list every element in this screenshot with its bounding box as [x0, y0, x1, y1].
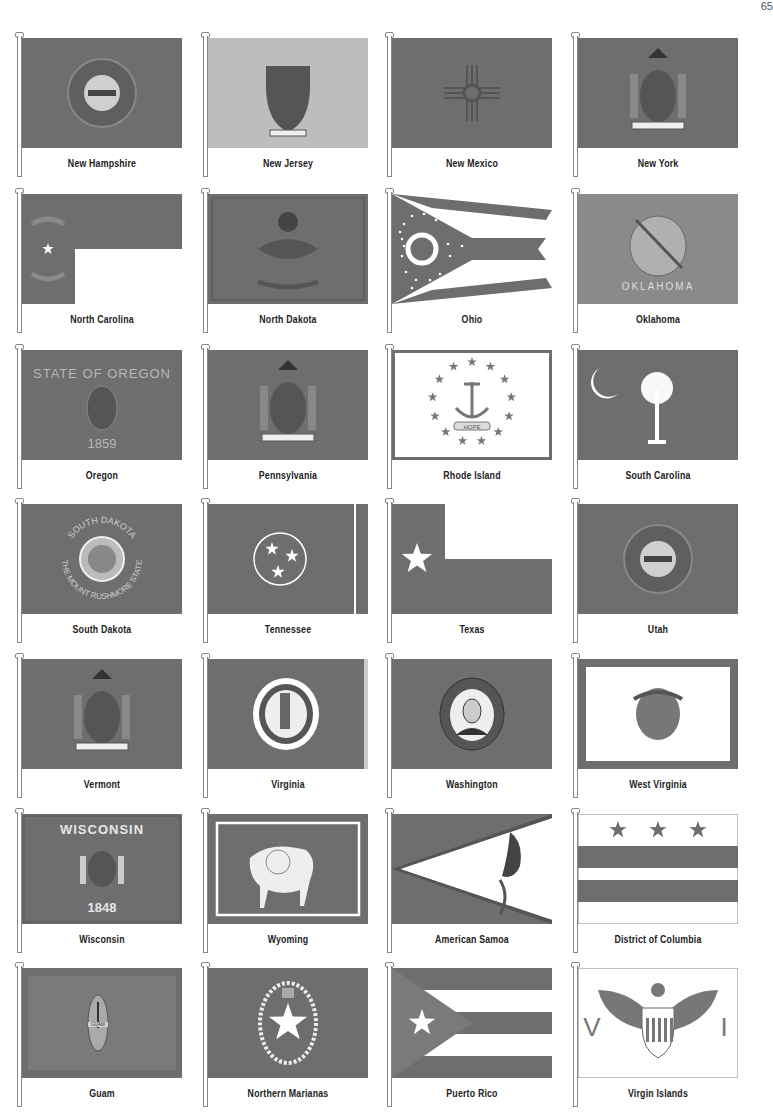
- svg-text:1859: 1859: [88, 436, 117, 451]
- flag-label: South Dakota: [32, 624, 173, 635]
- flag-card-west-virginia: West Virginia: [566, 653, 752, 803]
- flag-label: Ohio: [402, 314, 543, 325]
- flag-card-ohio: Ohio: [380, 188, 566, 338]
- flag-label: South Carolina: [588, 470, 729, 481]
- flag-image-tennessee: [208, 504, 368, 614]
- flag-card-guam: GUAMGuam: [10, 962, 196, 1112]
- svg-text:HOPE: HOPE: [463, 424, 480, 430]
- flag-card-new-hampshire: New Hampshire: [10, 32, 196, 182]
- flag-card-texas: Texas: [380, 498, 566, 648]
- flag-label: Wisconsin: [32, 934, 173, 945]
- flag-label: Pennsylvania: [218, 470, 359, 481]
- flag-card-new-york: New York: [566, 32, 752, 182]
- flag-image-american-samoa: [392, 814, 552, 924]
- flag-image-rhode-island: HOPE: [392, 350, 552, 460]
- flag-card-wisconsin: WISCONSIN1848Wisconsin: [10, 808, 196, 958]
- flag-label: West Virginia: [588, 779, 729, 790]
- flag-card-rhode-island: HOPERhode Island: [380, 344, 566, 494]
- flag-card-south-dakota: SOUTH DAKOTATHE MOUNT RUSHMORE STATESout…: [10, 498, 196, 648]
- flag-card-virginia: Virginia: [196, 653, 382, 803]
- flag-image-wisconsin: WISCONSIN1848: [22, 814, 182, 924]
- flag-image-northern-marianas: [208, 968, 368, 1078]
- flag-image-south-dakota: SOUTH DAKOTATHE MOUNT RUSHMORE STATE: [22, 504, 182, 614]
- flag-image-oregon: STATE OF OREGON1859: [22, 350, 182, 460]
- flag-label: New Mexico: [402, 158, 543, 169]
- flag-card-washington: Washington: [380, 653, 566, 803]
- flag-label: Virginia: [218, 779, 359, 790]
- flag-label: Utah: [588, 624, 729, 635]
- flag-card-utah: Utah: [566, 498, 752, 648]
- flag-card-district-of-columbia: District of Columbia: [566, 808, 752, 958]
- flag-card-north-carolina: North Carolina: [10, 188, 196, 338]
- flag-image-ohio: [392, 194, 552, 304]
- svg-text:STATE OF OREGON: STATE OF OREGON: [33, 366, 171, 381]
- svg-text:WISCONSIN: WISCONSIN: [60, 822, 144, 837]
- flag-card-oregon: STATE OF OREGON1859Oregon: [10, 344, 196, 494]
- flag-card-northern-marianas: Northern Marianas: [196, 962, 382, 1112]
- flag-label: Washington: [402, 779, 543, 790]
- flag-label: North Carolina: [32, 314, 173, 325]
- flag-label: Puerto Rico: [402, 1088, 543, 1099]
- flag-image-virginia: [208, 659, 368, 769]
- flag-image-wyoming: [208, 814, 368, 924]
- flag-image-oklahoma: OKLAHOMA: [578, 194, 738, 304]
- flag-label: Rhode Island: [402, 470, 543, 481]
- flag-label: New York: [588, 158, 729, 169]
- flag-label: Oklahoma: [588, 314, 729, 325]
- flag-label: North Dakota: [218, 314, 359, 325]
- flag-card-tennessee: Tennessee: [196, 498, 382, 648]
- flag-card-pennsylvania: Pennsylvania: [196, 344, 382, 494]
- flag-image-utah: [578, 504, 738, 614]
- flag-card-oklahoma: OKLAHOMAOklahoma: [566, 188, 752, 338]
- flag-image-north-carolina: [22, 194, 182, 304]
- flag-label: New Jersey: [218, 158, 359, 169]
- flag-card-new-jersey: New Jersey: [196, 32, 382, 182]
- flag-label: Virgin Islands: [588, 1088, 729, 1099]
- flag-card-puerto-rico: Puerto Rico: [380, 962, 566, 1112]
- flag-card-new-mexico: New Mexico: [380, 32, 566, 182]
- flag-image-puerto-rico: [392, 968, 552, 1078]
- svg-text:I: I: [720, 1012, 727, 1042]
- flag-card-virgin-islands: VIVirgin Islands: [566, 962, 752, 1112]
- flag-image-district-of-columbia: [578, 814, 738, 924]
- flag-card-wyoming: Wyoming: [196, 808, 382, 958]
- flag-card-vermont: Vermont: [10, 653, 196, 803]
- flag-label: New Hampshire: [32, 158, 173, 169]
- flag-label: District of Columbia: [588, 934, 729, 945]
- flag-image-new-mexico: [392, 38, 552, 148]
- page-number: 65: [761, 0, 773, 12]
- flag-label: Wyoming: [218, 934, 359, 945]
- flag-label: Tennessee: [218, 624, 359, 635]
- flag-image-vermont: [22, 659, 182, 769]
- svg-text:GUAM: GUAM: [91, 1022, 105, 1027]
- svg-text:OKLAHOMA: OKLAHOMA: [622, 281, 695, 292]
- flag-image-north-dakota: [208, 194, 368, 304]
- flag-label: Texas: [402, 624, 543, 635]
- flag-image-pennsylvania: [208, 350, 368, 460]
- flag-image-new-hampshire: [22, 38, 182, 148]
- flag-image-new-york: [578, 38, 738, 148]
- flag-image-virgin-islands: VI: [578, 968, 738, 1078]
- flag-label: Oregon: [32, 470, 173, 481]
- svg-text:V: V: [583, 1012, 601, 1042]
- flag-label: American Samoa: [402, 934, 543, 945]
- flag-image-guam: GUAM: [22, 968, 182, 1078]
- flag-image-texas: [392, 504, 552, 614]
- flag-label: Guam: [32, 1088, 173, 1099]
- flag-image-south-carolina: [578, 350, 738, 460]
- svg-text:1848: 1848: [88, 900, 117, 915]
- flag-card-american-samoa: American Samoa: [380, 808, 566, 958]
- flag-image-new-jersey: [208, 38, 368, 148]
- flag-label: Vermont: [32, 779, 173, 790]
- flag-image-washington: [392, 659, 552, 769]
- flag-card-south-carolina: South Carolina: [566, 344, 752, 494]
- flag-label: Northern Marianas: [218, 1088, 359, 1099]
- flag-image-west-virginia: [578, 659, 738, 769]
- flag-card-north-dakota: North Dakota: [196, 188, 382, 338]
